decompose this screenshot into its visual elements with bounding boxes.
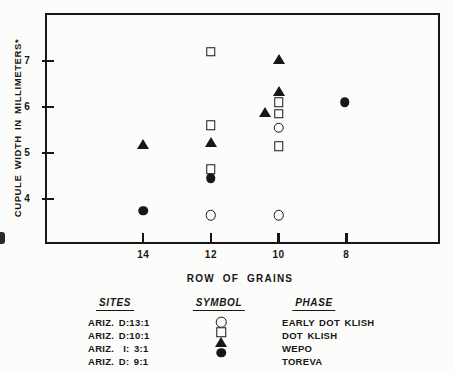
legend-site-label: ARIZ. D: 9:1 [88, 356, 148, 368]
legend-site-label: ARIZ. D:10:1 [88, 330, 150, 342]
point-filled-triangle [137, 139, 149, 149]
y-tick [42, 106, 54, 109]
x-tick-label: 14 [131, 249, 155, 261]
legend-open-circle-icon [216, 317, 227, 328]
legend-header-sites: SITES [96, 297, 134, 311]
point-filled-circle [138, 206, 148, 216]
legend-filled-circle-icon [216, 348, 226, 358]
x-tick [142, 233, 145, 244]
legend-phase-label: WEPO [282, 343, 312, 355]
y-tick-label: 7 [18, 55, 36, 67]
point-filled-circle [340, 98, 350, 108]
x-axis-title: ROW OF GRAINS [187, 273, 293, 284]
scan-artifact [0, 232, 5, 244]
x-tick [345, 233, 348, 244]
y-tick [42, 198, 54, 201]
point-open-square [206, 121, 216, 131]
point-open-square [206, 164, 216, 174]
x-tick-label: 12 [199, 249, 223, 261]
point-filled-triangle [259, 107, 271, 117]
x-tick [210, 233, 213, 244]
point-open-square [206, 47, 216, 57]
point-filled-triangle [273, 86, 285, 96]
legend-site-label: ARIZ. D:13:1 [88, 317, 150, 329]
point-open-square [274, 98, 284, 108]
y-tick-label: 4 [18, 193, 36, 205]
legend-filled-triangle-icon [215, 337, 227, 347]
legend-header-phase: PHASE [292, 297, 335, 311]
legend-site-label: ARIZ. I: 3:1 [88, 343, 149, 355]
point-open-circle [273, 122, 284, 133]
legend-header-symbol: SYMBOL [193, 297, 245, 311]
scatter-figure: CUPULE WIDTH IN MILLIMETERS* ROW OF GRAI… [0, 0, 454, 374]
point-filled-triangle [205, 137, 217, 147]
plot-area [45, 13, 440, 244]
legend-phase-label: DOT KLISH [282, 330, 337, 342]
legend-phase-label: EARLY DOT KLISH [282, 317, 375, 329]
legend-phase-label: TOREVA [282, 356, 323, 368]
y-tick-label: 6 [18, 101, 36, 113]
point-open-circle [273, 210, 284, 221]
x-tick-label: 8 [334, 249, 358, 261]
y-tick [42, 60, 54, 63]
legend-open-square-icon [216, 327, 226, 337]
x-tick-label: 10 [267, 249, 291, 261]
point-filled-circle [206, 174, 216, 184]
point-open-circle [206, 210, 217, 221]
point-open-square [274, 141, 284, 151]
point-filled-triangle [273, 54, 285, 64]
x-tick [277, 233, 280, 244]
y-tick [42, 152, 54, 155]
point-open-square [274, 109, 284, 119]
y-tick-label: 5 [18, 147, 36, 159]
